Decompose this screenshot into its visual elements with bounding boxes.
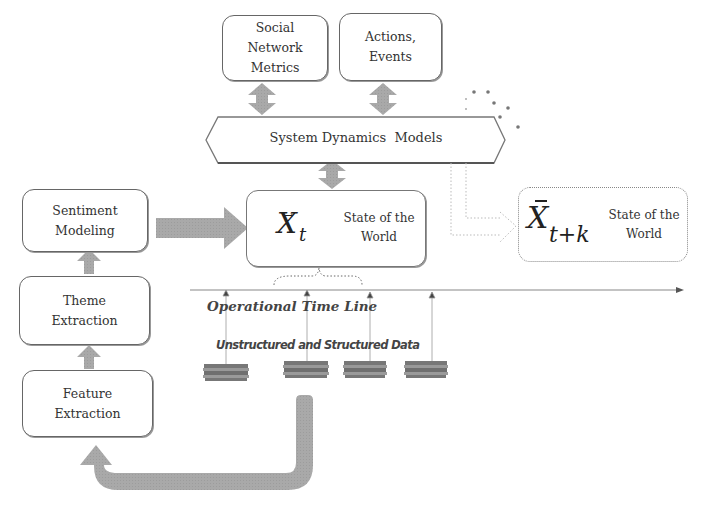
system-dynamics-label: System Dynamics Models xyxy=(206,130,506,145)
data-sources-label: Unstructured and Structured Data xyxy=(216,338,419,352)
right-arrow-icon xyxy=(156,207,248,249)
bar-accent-icon xyxy=(535,200,547,202)
sentiment-modeling-box: Sentiment Modeling xyxy=(22,189,148,252)
feature-extraction-box: Feature Extraction xyxy=(22,370,153,437)
future-state-box: X t+k State of the World xyxy=(518,187,688,262)
actions-events-box: Actions, Events xyxy=(339,13,442,81)
up-arrow-icon xyxy=(77,345,101,369)
future-state-symbol: X xyxy=(527,200,548,235)
up-arrow-icon xyxy=(77,249,101,274)
data-stack-icon xyxy=(283,361,329,378)
double-arrow-icon xyxy=(248,83,276,115)
data-stack-icon xyxy=(404,361,448,378)
data-stack-icon xyxy=(203,364,249,381)
double-arrow-icon xyxy=(318,160,346,189)
social-network-metrics-box: Social Network Metrics xyxy=(222,15,328,81)
timeline-arrowhead-icon xyxy=(676,287,684,293)
future-state-label: State of the World xyxy=(603,206,685,244)
state-label: State of the World xyxy=(339,209,419,247)
diagram-canvas: Social Network Metrics Actions, Events S… xyxy=(0,0,704,524)
current-state-box: X → t State of the World xyxy=(246,190,426,267)
timeline-label: Operational Time Line xyxy=(207,298,377,314)
double-arrow-icon xyxy=(369,83,397,115)
vector-arrow-icon: → xyxy=(282,207,294,223)
state-subscript: t xyxy=(299,224,306,245)
data-stack-icon xyxy=(343,361,387,378)
theme-extraction-box: Theme Extraction xyxy=(19,276,150,345)
future-state-subscript: t+k xyxy=(549,222,590,247)
